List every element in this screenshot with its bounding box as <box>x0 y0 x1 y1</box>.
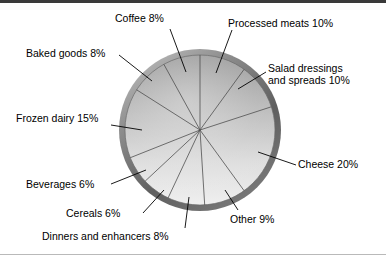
slice-label-frozen-dairy: Frozen dairy 15% <box>16 112 98 124</box>
slice-label-salad-dressings-line2: and spreads 10% <box>268 74 350 86</box>
slice-label-baked-goods: Baked goods 8% <box>26 47 105 59</box>
pie-graphic <box>115 44 285 216</box>
slice-label-other: Other 9% <box>230 213 274 225</box>
slice-label-salad-dressings-line1: Salad dressings <box>268 62 350 74</box>
slice-label-cereals: Cereals 6% <box>66 207 120 219</box>
figure-bottom-rule <box>0 254 386 255</box>
pie-chart-figure: Coffee 8% Processed meats 10% Baked good… <box>0 0 386 259</box>
slice-label-coffee: Coffee 8% <box>115 12 164 24</box>
slice-label-dinners-and-enhancers: Dinners and enhancers 8% <box>42 230 169 242</box>
slice-label-cheese: Cheese 20% <box>298 158 358 170</box>
slice-label-salad-dressings: Salad dressings and spreads 10% <box>268 62 350 86</box>
slice-label-beverages: Beverages 6% <box>26 178 94 190</box>
figure-top-rule <box>0 0 386 3</box>
slice-label-processed-meats: Processed meats 10% <box>228 17 333 29</box>
